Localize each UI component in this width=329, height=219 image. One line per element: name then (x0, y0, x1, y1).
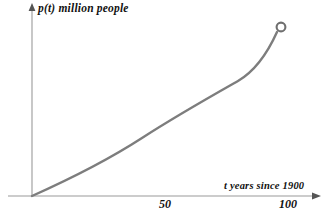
x-tick-label-100: 100 (272, 197, 304, 212)
x-axis-arrow-icon (312, 192, 321, 199)
curve-endpoint-marker (277, 23, 286, 32)
x-axis-label: t years since 1900 (224, 180, 304, 191)
y-axis-arrow-icon (29, 3, 36, 11)
y-axis-label: p(t) million people (38, 2, 129, 14)
population-growth-chart: p(t) million people t years since 1900 5… (0, 0, 329, 219)
x-tick-label-50: 50 (150, 197, 180, 212)
population-curve (32, 32, 277, 196)
